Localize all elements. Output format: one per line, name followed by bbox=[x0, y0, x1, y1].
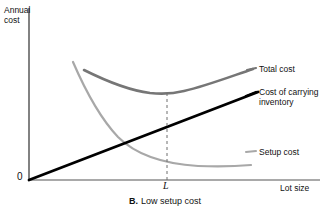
chart-figure: Annual cost Lot size 0 L Total cost Cost… bbox=[0, 0, 330, 211]
legend-label-setup-cost: Setup cost bbox=[259, 147, 299, 157]
figure-caption: B.Low setup cost bbox=[0, 196, 330, 206]
x-axis-tick-label-L: L bbox=[163, 181, 169, 191]
y-axis-label: Annual cost bbox=[4, 5, 46, 25]
origin-label: 0 bbox=[17, 172, 23, 182]
legend-leader-total-icon bbox=[247, 68, 256, 70]
figure-caption-letter: B. bbox=[129, 196, 138, 206]
x-axis-label: Lot size bbox=[280, 183, 309, 193]
figure-caption-text: Low setup cost bbox=[141, 196, 201, 206]
legend-label-carrying-cost: Cost of carrying inventory bbox=[259, 87, 329, 107]
legend-leader-setup-icon bbox=[246, 151, 256, 152]
legend-label-total-cost: Total cost bbox=[259, 64, 295, 74]
total-cost-curve bbox=[84, 69, 253, 94]
